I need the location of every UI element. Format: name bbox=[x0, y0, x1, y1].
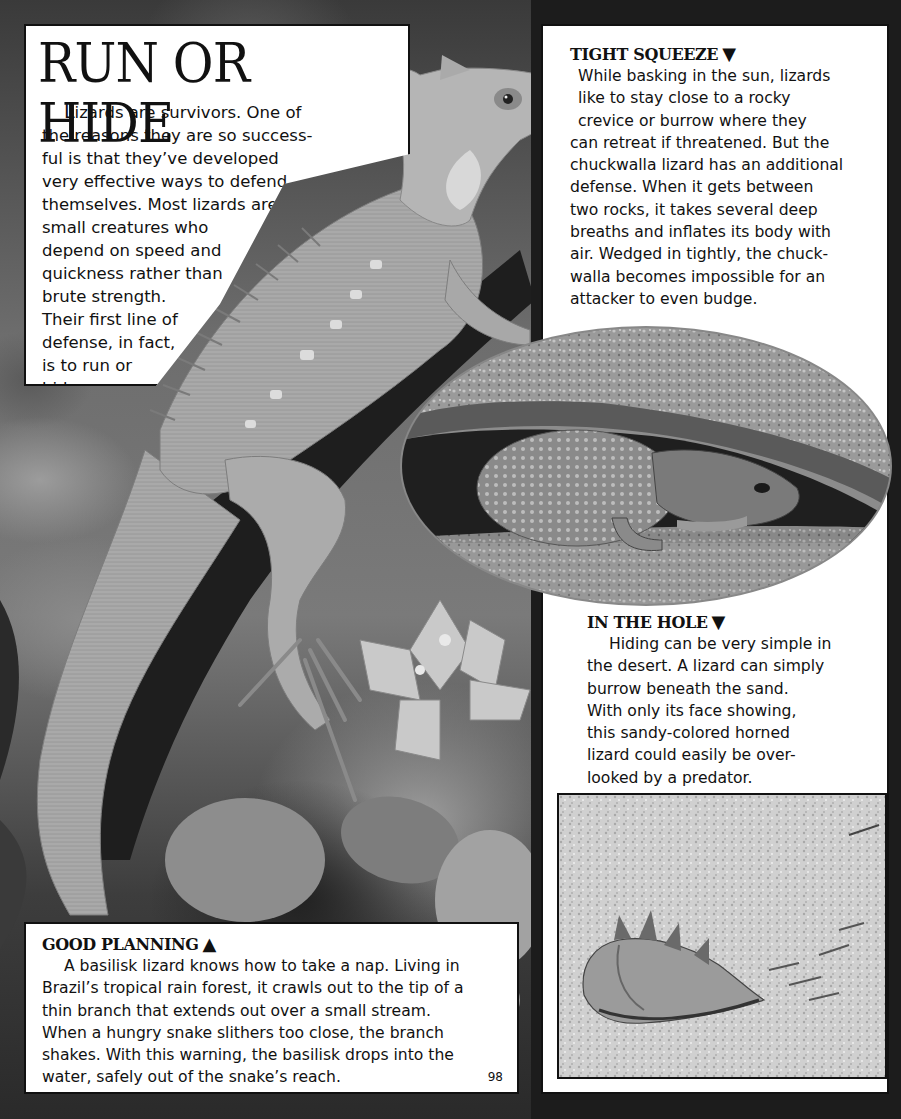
section-heading: GOOD PLANNING▲ bbox=[42, 934, 503, 955]
chuckwalla-illustration bbox=[402, 328, 890, 604]
intro-line: themselves. Most lizards are bbox=[42, 193, 292, 216]
intro-line: ful is that they’ve developed bbox=[42, 147, 292, 170]
section-body: While basking in the sun, lizards like t… bbox=[570, 65, 890, 310]
chuckwalla-photo bbox=[402, 328, 890, 604]
section-body: Hiding can be very simple in the desert.… bbox=[587, 633, 887, 789]
triangle-down-icon: ▼ bbox=[722, 43, 735, 64]
section-body: A basilisk lizard knows how to take a na… bbox=[42, 955, 503, 1089]
section-in-the-hole: IN THE HOLE▼ Hiding can be very simple i… bbox=[587, 612, 887, 789]
intro-line: Lizards are survivors. One of bbox=[42, 100, 292, 124]
triangle-down-icon: ▼ bbox=[712, 611, 725, 632]
horned-lizard-illustration bbox=[559, 795, 887, 1079]
section-heading: IN THE HOLE▼ bbox=[587, 612, 887, 633]
good-planning-caption: GOOD PLANNING▲ A basilisk lizard knows h… bbox=[24, 922, 519, 1094]
intro-line: very effective ways to defend bbox=[42, 170, 292, 193]
drop-cap: L bbox=[64, 100, 75, 122]
horned-lizard-photo bbox=[557, 793, 887, 1079]
intro-line: the reasons they are so success- bbox=[42, 124, 292, 147]
section-heading: TIGHT SQUEEZE▼ bbox=[570, 44, 890, 65]
page-number: 98 bbox=[488, 1070, 503, 1084]
intro-line: small creatures who bbox=[42, 216, 292, 239]
triangle-up-icon: ▲ bbox=[203, 933, 216, 954]
section-tight-squeeze: TIGHT SQUEEZE▼ While basking in the sun,… bbox=[570, 44, 890, 310]
